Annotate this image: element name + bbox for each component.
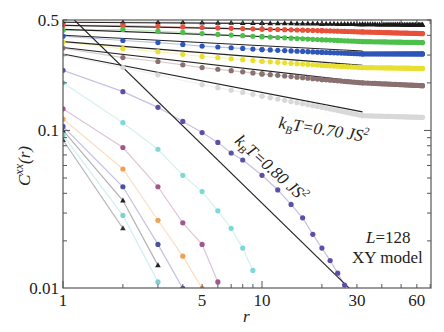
data-point <box>120 145 125 150</box>
data-point <box>229 88 234 93</box>
data-point <box>259 93 264 98</box>
data-point <box>268 47 273 52</box>
data-point <box>275 35 280 40</box>
data-point <box>275 48 280 53</box>
x-tick-label: 60 <box>408 291 425 310</box>
data-point <box>282 73 287 78</box>
data-point <box>120 46 125 51</box>
svg-text:kBT=0.80 JS2: kBT=0.80 JS2 <box>230 129 313 207</box>
data-point <box>180 30 185 35</box>
series-curve <box>63 140 123 228</box>
x-tick-label: 5 <box>198 291 207 310</box>
system-size-label: L=128 <box>365 228 411 247</box>
data-point <box>275 60 280 65</box>
data-point <box>305 102 310 107</box>
data-point <box>288 99 293 104</box>
data-point <box>268 72 273 77</box>
data-point <box>282 60 287 65</box>
data-point <box>250 92 255 97</box>
data-point <box>250 46 255 51</box>
data-point <box>215 208 220 213</box>
data-point <box>229 26 234 31</box>
data-point <box>155 105 160 110</box>
data-point <box>155 262 161 267</box>
data-point <box>199 65 204 70</box>
y-axis-label: Cxx(r) <box>12 146 34 186</box>
data-point <box>120 38 125 43</box>
series-curve <box>63 135 158 281</box>
fit-line <box>74 20 349 288</box>
data-point <box>215 32 220 37</box>
data-point <box>420 31 425 36</box>
data-point <box>120 55 125 60</box>
data-point <box>259 34 264 39</box>
data-point <box>120 27 125 32</box>
data-point <box>310 49 315 54</box>
data-point <box>199 82 204 87</box>
correlation-chart: 151030600.50.10.01 r Cxx(r) kBT=0.70 JS2… <box>0 0 444 332</box>
model-label: XY model <box>352 248 423 267</box>
data-point <box>319 246 324 251</box>
data-point <box>268 59 273 64</box>
annotation-080: kBT=0.80 JS2 <box>230 129 313 207</box>
data-point <box>240 90 245 95</box>
data-point <box>305 49 310 54</box>
data-point <box>180 173 185 178</box>
data-point <box>300 61 305 66</box>
data-point <box>215 67 220 72</box>
y-tick-label: 0.5 <box>38 11 59 30</box>
data-point <box>300 75 305 80</box>
data-point <box>300 101 305 106</box>
data-point <box>120 65 125 70</box>
data-point <box>240 46 245 51</box>
x-tick-label: 10 <box>254 291 271 310</box>
data-point <box>180 220 185 225</box>
data-point <box>240 33 245 38</box>
data-point <box>315 28 320 33</box>
data-point <box>259 71 264 76</box>
data-point <box>310 62 315 67</box>
data-point <box>305 28 310 33</box>
data-point <box>180 52 185 57</box>
data-point <box>335 271 340 276</box>
data-point <box>294 36 299 41</box>
data-point <box>250 58 255 63</box>
data-point <box>305 36 310 41</box>
data-point <box>240 26 245 31</box>
data-point <box>155 59 160 64</box>
data-point <box>180 119 185 124</box>
data-point <box>120 184 125 189</box>
data-point <box>420 40 425 45</box>
data-point <box>155 29 160 34</box>
data-point <box>310 28 315 33</box>
data-point <box>215 140 220 145</box>
data-point <box>300 28 305 33</box>
data-point <box>250 268 255 273</box>
data-point <box>155 24 160 29</box>
data-point <box>288 36 293 41</box>
data-point <box>250 70 255 75</box>
data-point <box>282 98 287 103</box>
data-point <box>294 27 299 32</box>
data-point <box>282 27 287 32</box>
data-point <box>282 35 287 40</box>
svg-text:Cxx(r): Cxx(r) <box>12 146 34 186</box>
data-point <box>420 115 425 120</box>
data-point <box>215 279 220 284</box>
data-point <box>310 37 315 42</box>
data-point <box>180 254 185 259</box>
data-point <box>120 120 125 125</box>
data-point <box>240 246 245 251</box>
data-point <box>199 31 204 36</box>
data-point <box>310 76 315 81</box>
data-point <box>268 27 273 32</box>
y-tick-label: 0.01 <box>29 279 59 298</box>
data-point <box>215 55 220 60</box>
data-point <box>229 68 234 73</box>
data-point <box>288 48 293 53</box>
data-point <box>420 51 425 56</box>
data-point <box>199 130 204 135</box>
data-point <box>305 62 310 67</box>
data-point <box>275 96 280 101</box>
x-tick-label: 1 <box>59 291 68 310</box>
